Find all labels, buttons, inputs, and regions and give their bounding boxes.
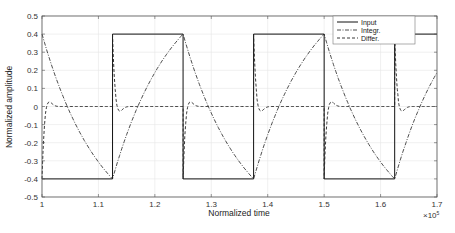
svg-text:1.7: 1.7 bbox=[431, 200, 443, 209]
legend-differ: Differ. bbox=[361, 35, 379, 42]
svg-text:1.1: 1.1 bbox=[93, 200, 105, 209]
line-chart: 0.50.40.30.20.10-0.1-0.2-0.3-0.4-0.5 11.… bbox=[0, 0, 455, 233]
svg-text:0.5: 0.5 bbox=[27, 12, 39, 21]
svg-text:1.6: 1.6 bbox=[375, 200, 387, 209]
svg-text:1.2: 1.2 bbox=[149, 200, 161, 209]
svg-text:-0.3: -0.3 bbox=[24, 157, 38, 166]
x-axis-label: Normalized time bbox=[208, 208, 270, 218]
legend-integr: Integr. bbox=[361, 27, 381, 35]
y-axis-label: Normalized amplitude bbox=[4, 66, 14, 148]
legend-input: Input bbox=[361, 19, 377, 27]
svg-text:-0.4: -0.4 bbox=[24, 175, 38, 184]
x-multiplier: ×105 bbox=[423, 210, 440, 220]
svg-text:0: 0 bbox=[34, 103, 39, 112]
svg-text:1.5: 1.5 bbox=[319, 200, 331, 209]
svg-text:1: 1 bbox=[40, 200, 45, 209]
svg-text:0.2: 0.2 bbox=[27, 66, 39, 75]
svg-text:0.4: 0.4 bbox=[27, 30, 39, 39]
svg-text:0.3: 0.3 bbox=[27, 48, 39, 57]
legend: Input Integr. Differ. bbox=[333, 16, 415, 44]
x-axis-ticks: 11.11.21.31.41.51.61.7 bbox=[40, 16, 443, 209]
svg-text:-0.1: -0.1 bbox=[24, 121, 38, 130]
svg-text:-0.5: -0.5 bbox=[24, 193, 38, 202]
svg-text:-0.2: -0.2 bbox=[24, 139, 38, 148]
svg-text:0.1: 0.1 bbox=[27, 84, 39, 93]
